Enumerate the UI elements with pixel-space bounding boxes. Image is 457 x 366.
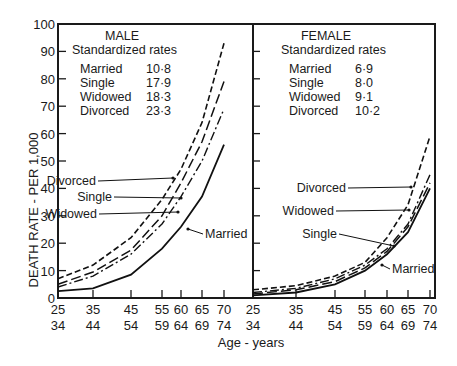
annotation-arrowhead xyxy=(380,263,383,266)
x-tick-label-bottom: 74 xyxy=(217,318,231,333)
legend-rate-value: 10·2 xyxy=(355,104,380,118)
legend-rate-value: 10·8 xyxy=(146,62,171,76)
legend-rate-value: 9·1 xyxy=(355,90,373,104)
legend-rate-name: Widowed xyxy=(289,90,340,104)
series-line-single xyxy=(253,183,430,294)
legend-rate-value: 8·0 xyxy=(355,76,373,90)
x-tick-label-top: 65 xyxy=(401,302,415,317)
annotation-arrowhead xyxy=(176,210,179,213)
x-tick-label-top: 25 xyxy=(51,302,65,317)
legend-title: Standardized rates xyxy=(72,43,177,57)
y-tick-label: 90 xyxy=(41,44,55,59)
annotation-arrowhead xyxy=(392,244,395,247)
annotation-arrowhead xyxy=(409,185,412,188)
annotation-label-divorced: Divorced xyxy=(47,174,96,188)
annotation-arrow xyxy=(336,210,409,211)
y-tick-label: 20 xyxy=(41,236,55,251)
legend-rate-name: Single xyxy=(80,76,115,90)
legend-rate-name: Divorced xyxy=(289,104,338,118)
annotation-label-widowed: Widowed xyxy=(283,204,334,218)
x-tick-label-top: 55 xyxy=(155,302,169,317)
y-tick-label: 80 xyxy=(41,72,55,87)
annotation-arrow xyxy=(348,187,411,188)
annotation-arrowhead xyxy=(186,227,189,230)
x-tick-label-bottom: 54 xyxy=(124,318,138,333)
x-tick-label-bottom: 54 xyxy=(328,318,342,333)
annotation-label-divorced: Divorced xyxy=(297,181,346,195)
x-tick-label-top: 25 xyxy=(246,302,260,317)
legend-rate-name: Married xyxy=(80,62,122,76)
y-tick-label: 10 xyxy=(41,264,55,279)
panel-frame xyxy=(253,24,435,298)
annotation-arrowhead xyxy=(179,196,182,199)
legend-rate-value: 17·9 xyxy=(146,76,171,90)
annotation-label-widowed: Widowed xyxy=(46,207,97,221)
x-tick-label-top: 65 xyxy=(195,302,209,317)
x-axis-title: Age - years xyxy=(218,335,285,350)
panel-title: FEMALE xyxy=(301,29,351,43)
y-tick-label: 70 xyxy=(41,99,55,114)
x-tick-label-top: 60 xyxy=(380,302,394,317)
panel-title: MALE xyxy=(105,29,139,43)
death-rate-chart: DEATH RATE - PER 1,000 Age - years 01020… xyxy=(0,0,457,366)
legend-rate-value: 23·3 xyxy=(146,104,171,118)
x-tick-label-bottom: 34 xyxy=(51,318,65,333)
female-panel: 2534354445545559606465697074FEMALEStanda… xyxy=(246,24,437,333)
x-tick-label-bottom: 69 xyxy=(195,318,209,333)
male-panel: 2534354445545559606465697074MALEStandard… xyxy=(46,24,253,333)
x-tick-label-top: 60 xyxy=(174,302,188,317)
x-tick-label-bottom: 74 xyxy=(423,318,437,333)
legend-rate-name: Married xyxy=(289,62,331,76)
x-tick-label-top: 35 xyxy=(289,302,303,317)
annotation-arrow xyxy=(114,197,181,198)
legend-rate-name: Widowed xyxy=(80,90,131,104)
annotation-arrow xyxy=(99,212,178,214)
legend-rate-name: Divorced xyxy=(80,104,129,118)
x-tick-label-bottom: 64 xyxy=(380,318,394,333)
y-axis-title: DEATH RATE - PER 1,000 xyxy=(26,133,41,288)
annotation-arrow xyxy=(188,229,203,234)
annotation-label-single: Single xyxy=(77,190,112,204)
x-tick-label-top: 45 xyxy=(328,302,342,317)
x-tick-label-bottom: 34 xyxy=(246,318,260,333)
annotation-arrow xyxy=(98,178,173,181)
x-tick-label-top: 70 xyxy=(423,302,437,317)
annotation-arrowhead xyxy=(171,176,174,179)
legend-rate-value: 18·3 xyxy=(146,90,171,104)
x-tick-label-top: 70 xyxy=(217,302,231,317)
y-tick-label: 50 xyxy=(41,154,55,169)
x-tick-label-bottom: 69 xyxy=(401,318,415,333)
x-tick-label-bottom: 59 xyxy=(155,318,169,333)
annotation-label-married: Married xyxy=(205,227,247,241)
x-tick-label-top: 55 xyxy=(358,302,372,317)
annotation-arrowhead xyxy=(407,208,410,211)
y-tick-label: 100 xyxy=(33,17,55,32)
x-tick-label-top: 45 xyxy=(124,302,138,317)
legend-rate-value: 6·9 xyxy=(355,62,373,76)
legend-rate-name: Single xyxy=(289,76,324,90)
x-tick-label-bottom: 44 xyxy=(86,318,100,333)
annotation-label-married: Married xyxy=(392,262,434,276)
annotation-label-single: Single xyxy=(302,227,337,241)
x-tick-label-bottom: 64 xyxy=(174,318,188,333)
y-tick-label: 60 xyxy=(41,127,55,142)
legend-title: Standardized rates xyxy=(281,43,386,57)
x-tick-label-bottom: 59 xyxy=(358,318,372,333)
x-tick-label-top: 35 xyxy=(86,302,100,317)
x-tick-label-bottom: 44 xyxy=(289,318,303,333)
